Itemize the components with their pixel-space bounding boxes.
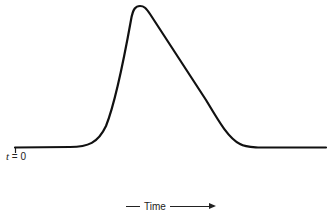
axis-dash [126, 206, 140, 207]
origin-label-value: = 0 [9, 151, 26, 162]
pulse-diagram [0, 0, 328, 223]
right-arrow-icon [170, 206, 214, 207]
time-axis-label: Time [126, 201, 214, 212]
pulse-curve [15, 6, 326, 148]
time-label-text: Time [144, 201, 166, 212]
origin-label: t = 0 [6, 150, 26, 162]
